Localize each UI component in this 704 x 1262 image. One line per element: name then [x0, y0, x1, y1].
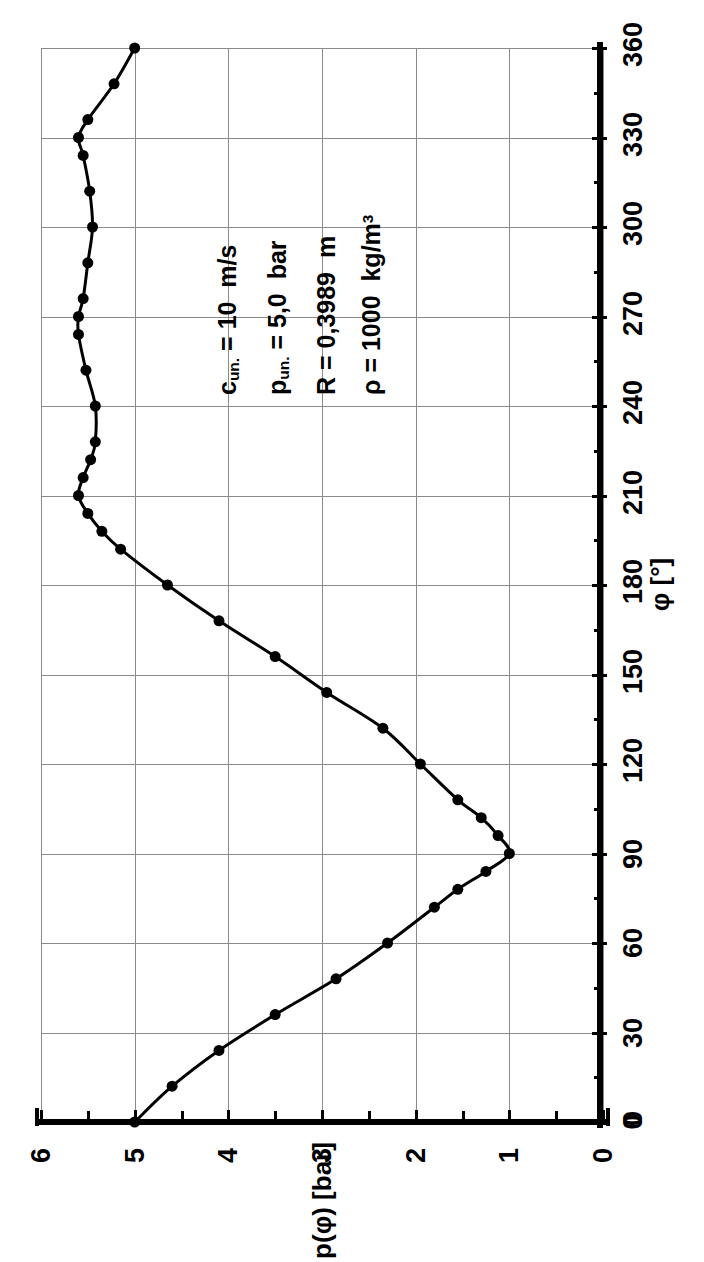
data-point: [493, 830, 504, 841]
data-point: [129, 1117, 140, 1128]
data-point: [87, 222, 98, 233]
data-point: [78, 150, 89, 161]
data-point: [452, 884, 463, 895]
data-point: [80, 365, 91, 376]
data-point: [377, 723, 388, 734]
data-point: [78, 472, 89, 483]
data-point: [78, 293, 89, 304]
data-point: [270, 651, 281, 662]
data-point: [73, 132, 84, 143]
data-point: [480, 866, 491, 877]
data-point: [429, 902, 440, 913]
data-point: [90, 436, 101, 447]
data-point: [167, 1081, 178, 1092]
data-point: [85, 454, 96, 465]
data-point: [73, 311, 84, 322]
curve-path: [78, 48, 510, 1122]
data-point: [270, 1009, 281, 1020]
data-point: [162, 580, 173, 591]
data-point: [115, 544, 126, 555]
data-point: [476, 812, 487, 823]
data-point: [129, 43, 140, 54]
data-point: [415, 759, 426, 770]
data-point: [96, 526, 107, 537]
data-point: [452, 794, 463, 805]
data-point: [73, 490, 84, 501]
data-point: [82, 257, 93, 268]
data-point: [109, 78, 120, 89]
data-point: [82, 114, 93, 125]
data-point: [331, 973, 342, 984]
data-point: [73, 329, 84, 340]
data-point: [382, 938, 393, 949]
data-point: [321, 687, 332, 698]
data-point: [213, 1045, 224, 1056]
data-point: [84, 186, 95, 197]
data-point: [504, 848, 515, 859]
curve-markers: [73, 43, 515, 1128]
data-point: [213, 615, 224, 626]
data-point: [82, 508, 93, 519]
data-point: [90, 401, 101, 412]
